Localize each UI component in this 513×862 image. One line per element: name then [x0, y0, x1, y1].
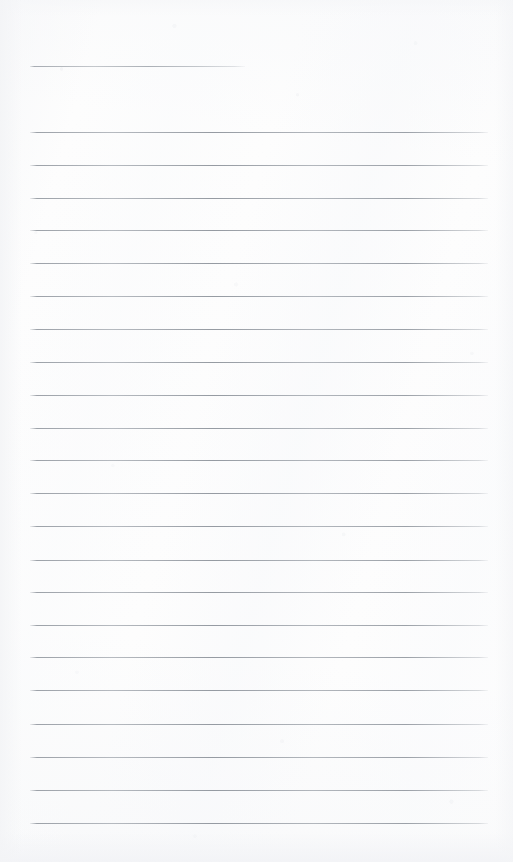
ruled-line [30, 362, 488, 363]
ruled-line [30, 790, 488, 791]
ruled-line [30, 493, 488, 494]
ruled-line [30, 395, 488, 396]
ruled-line [30, 625, 488, 626]
ruled-line [30, 296, 488, 297]
ruled-line [30, 757, 488, 758]
ruled-line [30, 460, 488, 461]
ruled-line [30, 823, 488, 824]
ruled-line [30, 230, 488, 231]
ruled-line [30, 329, 488, 330]
ruled-line [30, 132, 488, 133]
ruled-line [30, 690, 488, 691]
ruled-line [30, 198, 488, 199]
ruled-line [30, 592, 488, 593]
ruled-line [30, 560, 488, 561]
ruled-line [30, 165, 488, 166]
ruled-line [30, 724, 488, 725]
paper-background [0, 0, 513, 862]
notepad-page [0, 0, 513, 862]
ruled-line [30, 657, 488, 658]
header-rule [30, 66, 245, 67]
ruled-line [30, 428, 488, 429]
ruled-line [30, 263, 488, 264]
ruled-line [30, 526, 488, 527]
